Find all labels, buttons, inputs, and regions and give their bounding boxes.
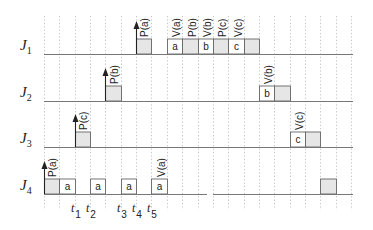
shaded-box bbox=[76, 132, 91, 147]
job-row-1: J1abcP(a)V(a)P(b)V(b)P(c)V(c) bbox=[20, 18, 353, 56]
operation-label: P(c) bbox=[217, 19, 228, 37]
operation-label: V(b) bbox=[202, 18, 213, 37]
job-row-3: J3cP(c)V(c) bbox=[20, 112, 353, 149]
shaded-box bbox=[245, 39, 260, 54]
operation-label: P(a) bbox=[47, 158, 58, 177]
operation-label: V(a) bbox=[156, 158, 167, 177]
row-label: J1 bbox=[20, 37, 32, 56]
shaded-box bbox=[106, 86, 122, 101]
operation-label: V(c) bbox=[233, 19, 244, 37]
shaded-box bbox=[183, 39, 199, 54]
operation-label: V(b) bbox=[263, 65, 274, 84]
job-rows: J1abcP(a)V(a)P(b)V(b)P(c)V(c)J2bP(b)V(b)… bbox=[20, 18, 353, 196]
box-label: a bbox=[172, 41, 178, 52]
time-mark: t5 bbox=[147, 201, 157, 220]
box-label: a bbox=[126, 181, 132, 192]
shaded-box bbox=[214, 39, 229, 54]
shaded-box bbox=[321, 179, 337, 194]
time-mark: t4 bbox=[132, 201, 142, 220]
time-marks: t1t2t3t4t5 bbox=[71, 201, 157, 220]
time-mark: t2 bbox=[86, 201, 96, 220]
operation-label: P(b) bbox=[187, 18, 198, 37]
operation-label: P(c) bbox=[78, 112, 89, 130]
shaded-box bbox=[45, 179, 60, 194]
operation-label: P(a) bbox=[139, 18, 150, 37]
operation-label: P(b) bbox=[109, 65, 120, 84]
operation-label: V(c) bbox=[294, 112, 305, 130]
shaded-box bbox=[306, 132, 321, 147]
box-label: a bbox=[65, 181, 71, 192]
box-label: c bbox=[234, 41, 239, 52]
job-row-2: J2bP(b)V(b) bbox=[20, 65, 353, 103]
box-label: c bbox=[296, 134, 301, 145]
box-label: a bbox=[157, 181, 163, 192]
job-row-4: J4aaaaP(a)V(a) bbox=[20, 158, 353, 196]
box-label: b bbox=[264, 88, 270, 99]
operation-label: V(a) bbox=[171, 18, 182, 37]
shaded-box bbox=[137, 39, 152, 54]
box-label: b bbox=[203, 41, 209, 52]
box-label: a bbox=[95, 181, 101, 192]
time-mark: t3 bbox=[117, 201, 127, 220]
row-label: J4 bbox=[20, 177, 32, 196]
time-mark: t1 bbox=[71, 201, 81, 220]
row-label: J3 bbox=[20, 130, 32, 149]
timing-diagram: J1abcP(a)V(a)P(b)V(b)P(c)V(c)J2bP(b)V(b)… bbox=[0, 0, 373, 230]
shaded-box bbox=[275, 86, 291, 101]
row-label: J2 bbox=[20, 84, 32, 103]
arrow-head-icon bbox=[103, 68, 109, 76]
